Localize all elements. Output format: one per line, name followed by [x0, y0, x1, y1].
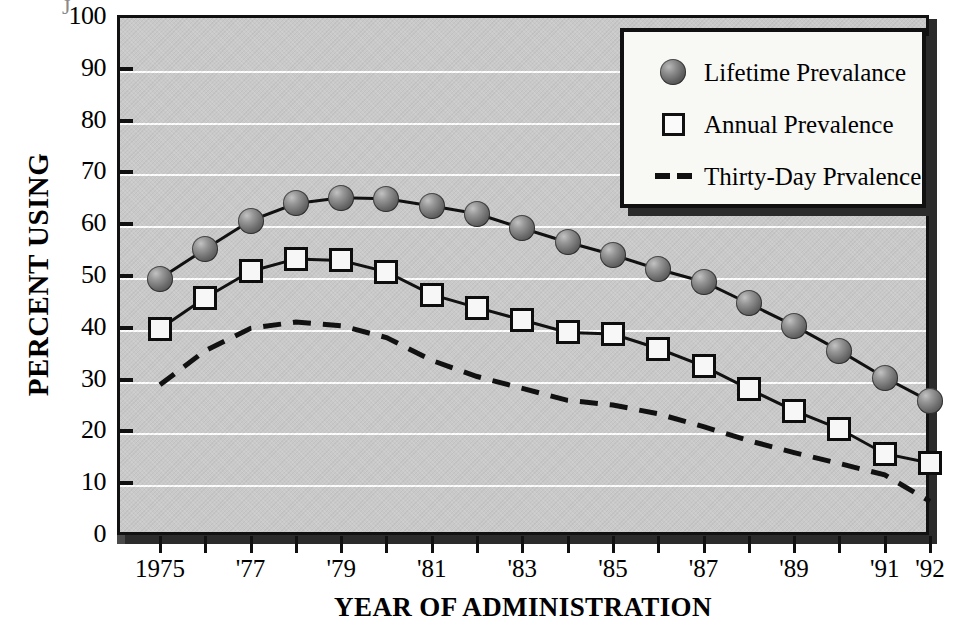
legend-item-label: Annual Prevalence: [704, 112, 894, 137]
sphere-marker-icon: [645, 256, 671, 282]
x-tick-mark: [703, 536, 706, 553]
square-marker-icon: [510, 308, 534, 332]
x-tick-label: '83: [508, 556, 538, 581]
x-tick-mark: [159, 536, 162, 553]
square-marker-icon: [329, 248, 353, 272]
dashed-line-icon: [642, 173, 704, 179]
square-marker-icon: [284, 247, 308, 271]
x-tick-label: '92: [915, 556, 945, 581]
x-tick-mark: [295, 536, 298, 553]
square-marker-icon: [692, 354, 716, 378]
sphere-marker-icon: [464, 201, 490, 227]
x-tick-mark: [385, 536, 388, 553]
x-tick-label: '81: [417, 556, 447, 581]
y-axis-title: PERCENT USING: [22, 145, 55, 405]
x-tick-mark: [929, 536, 932, 553]
x-tick-label: 1975: [135, 556, 185, 581]
legend-item-thirty-day[interactable]: Thirty-Day Prvalence: [624, 150, 922, 202]
x-tick-mark: [340, 536, 343, 553]
sphere-marker-icon: [736, 290, 762, 316]
x-tick-mark: [838, 536, 841, 553]
x-tick-label: '77: [236, 556, 266, 581]
x-tick-mark: [657, 536, 660, 553]
sphere-marker-icon: [600, 242, 626, 268]
x-tick-mark: [250, 536, 253, 553]
sphere-marker-icon: [872, 365, 898, 391]
sphere-marker-icon: [147, 266, 173, 292]
chart-figure: J 1009080706050403020100 1975'77'79'81'8…: [0, 0, 961, 629]
x-tick-label: '87: [689, 556, 719, 581]
square-marker-icon: [601, 322, 625, 346]
x-tick-label: '79: [326, 556, 356, 581]
x-axis-title: YEAR OF ADMINISTRATION: [117, 592, 929, 623]
x-tick-label: '89: [779, 556, 809, 581]
square-marker-icon: [827, 417, 851, 441]
square-marker-icon: [374, 260, 398, 284]
square-marker-icon: [193, 286, 217, 310]
sphere-marker-icon: [192, 236, 218, 262]
sphere-marker-icon: [691, 269, 717, 295]
x-tick-mark: [204, 536, 207, 553]
x-tick-mark: [567, 536, 570, 553]
sphere-marker-icon: [373, 186, 399, 212]
legend-item-lifetime[interactable]: Lifetime Prevalance: [624, 46, 922, 98]
sphere-marker-icon: [238, 208, 264, 234]
x-tick-mark: [884, 536, 887, 553]
square-marker-icon: [918, 451, 942, 475]
sphere-marker-icon: [419, 193, 445, 219]
sphere-marker-icon: [917, 388, 943, 414]
legend-item-label: Lifetime Prevalance: [704, 60, 906, 85]
sphere-marker-icon: [283, 190, 309, 216]
x-tick-label: '85: [598, 556, 628, 581]
sphere-marker-icon: [328, 185, 354, 211]
x-tick-mark: [748, 536, 751, 553]
x-tick-mark: [431, 536, 434, 553]
sphere-marker-icon: [642, 59, 704, 85]
x-tick-label: '91: [870, 556, 900, 581]
square-marker-icon: [873, 442, 897, 466]
x-tick-mark: [793, 536, 796, 553]
sphere-marker-icon: [509, 215, 535, 241]
x-tick-mark: [521, 536, 524, 553]
sphere-marker-icon: [826, 338, 852, 364]
x-tick-mark: [612, 536, 615, 553]
square-marker-icon: [465, 296, 489, 320]
square-marker-icon: [782, 399, 806, 423]
square-marker-icon: [556, 320, 580, 344]
legend-item-label: Thirty-Day Prvalence: [704, 164, 921, 189]
square-marker-icon: [737, 377, 761, 401]
square-marker-icon: [420, 283, 444, 307]
sphere-marker-icon: [781, 313, 807, 339]
legend: Lifetime Prevalance Annual Prevalence Th…: [620, 28, 926, 208]
square-marker-icon: [646, 337, 670, 361]
legend-item-annual[interactable]: Annual Prevalence: [624, 98, 922, 150]
sphere-marker-icon: [555, 229, 581, 255]
x-tick-mark: [476, 536, 479, 553]
square-marker-icon: [239, 259, 263, 283]
square-marker-icon: [148, 317, 172, 341]
square-marker-icon: [642, 113, 704, 136]
